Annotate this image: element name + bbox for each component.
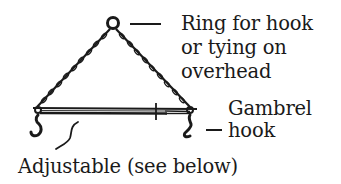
gambrel-hook-label: Gambrel hook (228, 97, 312, 141)
ring-label-line-2: or tying on (181, 36, 313, 60)
gambrel-label-line-2: hook (228, 119, 312, 141)
adjustable-label: Adjustable (see below) (18, 155, 238, 179)
ring-label-line-1: Ring for hook (181, 12, 313, 36)
ring-icon (108, 18, 119, 29)
gambrel-label-line-1: Gambrel (228, 97, 312, 119)
right-chain (116, 29, 190, 107)
right-hook-icon (184, 115, 191, 137)
left-hook-icon (31, 115, 41, 136)
gambrel-bar (33, 103, 197, 120)
left-chain (37, 29, 110, 107)
ring-label: Ring for hook or tying on overhead (181, 12, 313, 84)
ring-label-line-3: overhead (181, 60, 313, 84)
adjustable-leader-line (56, 122, 78, 149)
